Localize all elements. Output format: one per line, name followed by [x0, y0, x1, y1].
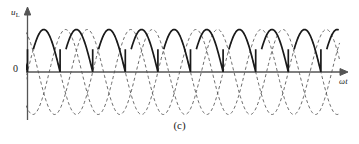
y-axis-arrow — [24, 7, 30, 15]
uL-output-path — [1, 30, 339, 73]
x-axis-arrow — [340, 69, 348, 76]
y-axis-label-main: u — [11, 7, 16, 17]
axes-group — [24, 7, 348, 120]
zero-tick-label: 0 — [13, 64, 18, 74]
y-axis-label-subscript: L — [16, 11, 20, 18]
y-axis-label: uL — [11, 8, 19, 17]
figure-container: uL ωt 0 (c) — [0, 0, 359, 144]
figure-caption: (c) — [0, 120, 359, 131]
load-voltage-waveform — [1, 30, 339, 73]
x-axis-label: ωt — [339, 77, 348, 86]
